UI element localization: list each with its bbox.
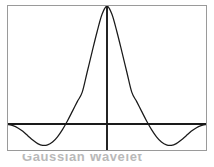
figure-caption: Gaussian Wavelet <box>22 154 202 164</box>
figure-container: Gaussian Wavelet <box>0 0 214 167</box>
wavelet-plot <box>8 6 206 150</box>
plot-frame <box>7 5 207 151</box>
figure-caption-strip: Gaussian Wavelet <box>0 154 214 167</box>
